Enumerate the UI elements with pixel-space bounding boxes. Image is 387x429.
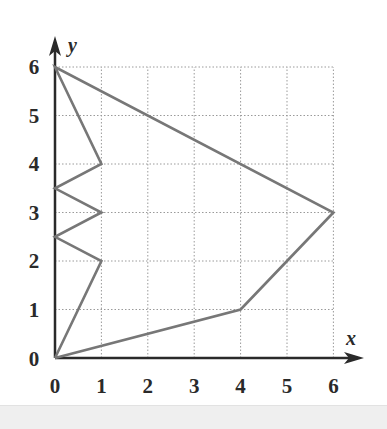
x-tick-label: 3 xyxy=(189,374,200,398)
grid-lines xyxy=(55,67,333,358)
x-tick-label: 5 xyxy=(282,374,293,398)
axes xyxy=(49,36,364,364)
polygon-series xyxy=(55,67,333,358)
y-tick-label: 4 xyxy=(29,152,40,176)
bottom-band xyxy=(0,405,387,429)
x-tick-label: 4 xyxy=(235,374,246,398)
x-tick-label: 2 xyxy=(143,374,154,398)
chart: 01234560123456 x y xyxy=(0,0,387,405)
x-axis-label: x xyxy=(345,327,356,349)
y-tick-label: 3 xyxy=(29,201,40,225)
y-tick-label: 1 xyxy=(29,298,40,322)
y-tick-label: 0 xyxy=(29,347,40,371)
y-tick-label: 6 xyxy=(29,55,40,79)
x-tick-label: 1 xyxy=(96,374,107,398)
y-tick-label: 2 xyxy=(29,249,40,273)
polygon-shape xyxy=(55,67,333,358)
x-tick-label: 6 xyxy=(328,374,339,398)
y-tick-label: 5 xyxy=(29,104,40,128)
x-tick-label: 0 xyxy=(50,374,61,398)
y-axis-label: y xyxy=(66,34,77,57)
